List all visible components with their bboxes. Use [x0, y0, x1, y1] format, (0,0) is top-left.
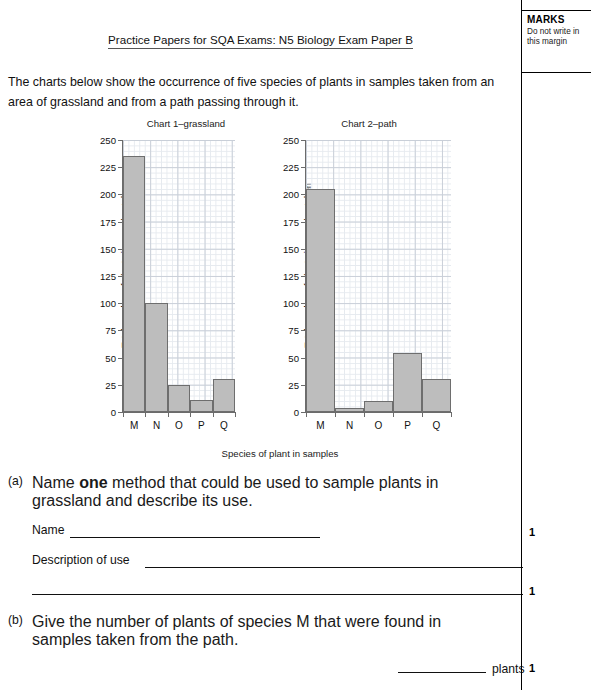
chart-1-bar-P	[190, 400, 212, 412]
question-a-text-bold: one	[79, 474, 107, 491]
charts-x-axis-label: Species of plant in samples	[150, 448, 410, 459]
question-a-name-label: Name	[32, 523, 65, 537]
chart-2-bar-N	[335, 408, 364, 412]
chart-1-x-tick	[213, 412, 214, 417]
chart-2-bar-Q	[422, 379, 451, 412]
question-a-number: (a)	[8, 474, 23, 488]
chart-2-bar-M	[306, 189, 335, 412]
chart-1-y-tick-label: 125	[100, 271, 116, 282]
charts-figure: Chart 1–grassland Total number of plants…	[0, 118, 521, 458]
chart-1-x-tick	[190, 412, 191, 417]
chart-1-y-tick-label: 0	[111, 407, 116, 418]
chart-2-y-tick-label: 200	[283, 189, 299, 200]
chart-2-x-label-N: N	[346, 420, 353, 431]
question-a-text: Name one method that could be used to sa…	[32, 474, 512, 510]
chart-2-y-tick	[301, 140, 306, 141]
chart-1-bar-M	[123, 156, 145, 412]
chart-2-y-tick	[301, 167, 306, 168]
chart-2-x-tick-end	[451, 412, 452, 417]
question-b-number: (b)	[8, 613, 23, 627]
chart-2-bar-P	[393, 353, 422, 412]
question-a-text-pre: Name	[32, 474, 79, 491]
chart-1-x-label-M: M	[130, 420, 138, 431]
question-b-text: Give the number of plants of species M t…	[32, 613, 502, 649]
chart-2-x-label-P: P	[404, 420, 411, 431]
chart-1-bar-Q	[213, 379, 235, 412]
page-title: Practice Papers for SQA Exams: N5 Biolog…	[0, 33, 521, 46]
chart-1-bar-O	[168, 385, 190, 412]
chart-1-x-tick	[168, 412, 169, 417]
chart-1-y-tick-label: 25	[105, 379, 116, 390]
chart-1-y-tick-label: 100	[100, 298, 116, 309]
chart-1-y-tick	[118, 140, 123, 141]
question-a-description-answer-line-2[interactable]	[32, 594, 523, 595]
mark-value-b: 1	[529, 662, 535, 674]
chart-2-plot-area: 0255075100125150175200225250MNOPQ	[305, 140, 451, 413]
marks-note: Do not write in this margin	[527, 27, 587, 47]
question-b-answer-line[interactable]	[398, 672, 486, 673]
question-a-description-label: Description of use	[32, 553, 130, 567]
chart-2-x-tick	[364, 412, 365, 417]
chart-2-y-tick-label: 50	[288, 352, 299, 363]
chart-2-y-tick-label: 75	[288, 325, 299, 336]
page-title-text: Practice Papers for SQA Exams: N5 Biolog…	[108, 33, 413, 49]
chart-1-y-tick-label: 225	[100, 162, 116, 173]
chart-1-x-label-P: P	[198, 420, 205, 431]
chart-1-x-tick	[145, 412, 146, 417]
chart-1-x-label-N: N	[153, 420, 160, 431]
chart-2-y-tick-label: 0	[294, 407, 299, 418]
question-a-description-answer-line-1[interactable]	[145, 567, 523, 568]
chart-2-x-tick	[393, 412, 394, 417]
chart-2-y-tick-label: 125	[283, 271, 299, 282]
marks-rule-bottom	[521, 72, 591, 73]
intro-paragraph: The charts below show the occurrence of …	[8, 72, 516, 112]
chart-1-x-tick	[123, 412, 124, 417]
chart-2-x-tick	[306, 412, 307, 417]
mark-value-a2: 1	[529, 585, 535, 597]
chart-2-x-tick	[335, 412, 336, 417]
chart-2-bar-O	[364, 401, 393, 412]
chart-1-y-tick-label: 200	[100, 189, 116, 200]
chart-1-y-tick-label: 175	[100, 216, 116, 227]
chart-1-x-tick-end	[235, 412, 236, 417]
question-a-name-answer-line[interactable]	[70, 537, 320, 538]
chart-2-x-label-M: M	[316, 420, 324, 431]
chart-2-y-tick-label: 150	[283, 243, 299, 254]
marks-header: MARKS Do not write in this margin	[527, 14, 587, 47]
chart-2-y-tick-label: 175	[283, 216, 299, 227]
marks-title: MARKS	[527, 14, 587, 25]
chart-1-y-tick-label: 150	[100, 243, 116, 254]
chart-1-x-label-O: O	[175, 420, 183, 431]
chart-2-x-tick	[422, 412, 423, 417]
chart-2-x-label-O: O	[375, 420, 383, 431]
chart-2-y-tick-label: 250	[283, 135, 299, 146]
marks-rule-top	[521, 10, 591, 11]
chart-2-y-tick-label: 225	[283, 162, 299, 173]
chart-1-y-tick-label: 250	[100, 135, 116, 146]
chart-1-bar-N	[145, 303, 167, 412]
question-b-answer-unit: plants	[492, 662, 525, 676]
chart-1-y-tick-label: 50	[105, 352, 116, 363]
chart-2-x-label-Q: Q	[433, 420, 441, 431]
chart-2-y-tick-label: 100	[283, 298, 299, 309]
mark-value-a: 1	[529, 526, 535, 538]
chart-1-plot-area: 0255075100125150175200225250MNOPQ	[122, 140, 235, 413]
chart-1-y-tick-label: 75	[105, 325, 116, 336]
chart-2-y-tick-label: 25	[288, 379, 299, 390]
chart-1-x-label-Q: Q	[220, 420, 228, 431]
